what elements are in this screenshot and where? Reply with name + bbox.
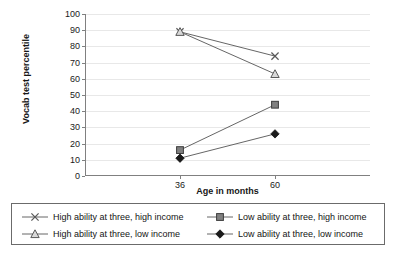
y-tick-label: 0 [75,171,80,181]
series-line [180,105,275,150]
legend-label: Low ability at three, low income [235,229,363,239]
chart-screenshot: Vocab test percentile 010203040506070809… [0,0,398,256]
y-tick-label: 20 [70,139,80,149]
legend-marker-x-icon [20,210,50,224]
line-chart-figure: Vocab test percentile 010203040506070809… [0,0,398,198]
legend-sample [20,227,50,241]
y-tick-mark [82,176,85,177]
series-4 [176,130,279,163]
data-point-x-marker [271,53,278,60]
legend-label: High ability at three, low income [50,229,180,239]
legend-label: High ability at three, high income [50,212,184,222]
plot-area: 0102030405060708090100 3660 [85,14,370,176]
data-point-square-marker [177,147,184,154]
y-tick-label: 100 [65,9,80,19]
data-point-square-marker [272,101,279,108]
series-plot [85,14,370,176]
legend-item[interactable]: Low ability at three, low income [205,225,384,243]
chart-legend: High ability at three, high incomeLow ab… [11,203,385,245]
legend-row: High ability at three, low incomeLow abi… [12,225,384,243]
legend-marker-triangle-icon [20,227,50,241]
y-tick-label: 60 [70,74,80,84]
data-point-triangle-marker [271,70,279,78]
data-point-diamond-marker [176,154,184,162]
legend-sample [20,210,50,224]
y-tick-label: 70 [70,58,80,68]
plot-wrapper: 0102030405060708090100 3660 Age in month… [55,8,380,176]
legend-marker-diamond-icon [205,227,235,241]
y-tick-label: 30 [70,122,80,132]
legend-label: Low ability at three, high income [235,212,367,222]
legend-item[interactable]: High ability at three, low income [12,225,205,243]
legend-marker-square-icon [205,210,235,224]
y-tick-label: 10 [70,155,80,165]
data-point-diamond-marker [216,230,224,238]
series-line [180,134,275,158]
y-axis-title: Vocab test percentile [21,4,31,154]
series-1 [176,28,278,60]
legend-row: High ability at three, high incomeLow ab… [12,208,384,226]
y-tick-label: 40 [70,106,80,116]
y-tick-label: 90 [70,25,80,35]
x-tick-mark [180,176,181,179]
y-tick-label: 50 [70,90,80,100]
legend-sample [205,227,235,241]
data-point-diamond-marker [271,130,279,138]
legend-item[interactable]: High ability at three, high income [12,208,205,226]
legend-item[interactable]: Low ability at three, high income [205,208,384,226]
x-axis-title: Age in months [85,186,370,196]
data-point-square-marker [217,214,224,221]
x-tick-mark [275,176,276,179]
y-tick-label: 80 [70,41,80,51]
legend-sample [205,210,235,224]
